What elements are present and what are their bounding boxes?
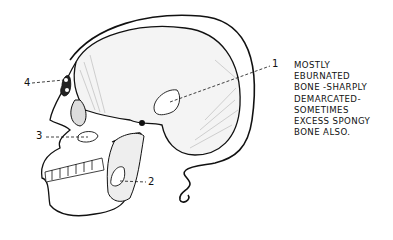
caption-line: BONE ALSO.: [294, 127, 393, 138]
mandible-ramus: [107, 133, 144, 201]
caption-text: MOSTLY EBURNATED BONE -SHARPLY DEMARCATE…: [294, 60, 393, 138]
caption-line: BONE -SHARPLY: [294, 82, 393, 93]
caption-line: MOSTLY: [294, 60, 393, 71]
marker-label-1: 1: [272, 58, 278, 69]
caption-line: EXCESS SPONGY: [294, 116, 393, 127]
teeth: [45, 158, 104, 182]
caption-line: DEMARCATED-: [294, 94, 393, 105]
marker-label-4: 4: [24, 77, 30, 88]
caption-line: SOMETIMES: [294, 105, 393, 116]
ear-notch: [139, 120, 145, 126]
caption-line: EBURNATED: [294, 71, 393, 82]
marker-label-2: 2: [148, 176, 154, 187]
marker-label-3: 3: [36, 130, 42, 141]
